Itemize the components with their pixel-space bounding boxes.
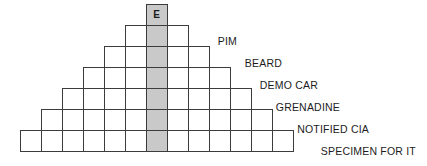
clue-list: PIMBEARDDEMO CARGRENADINENOTIFIED CIASPE… [0, 0, 427, 166]
clue-label-row-3: BEARD [245, 57, 282, 69]
puzzle-stage: E PIMBEARDDEMO CARGRENADINENOTIFIED CIAS… [0, 0, 427, 166]
clue-label-row-5: GRENADINE [276, 101, 340, 113]
clue-label-row-7: SPECIMEN FOR IT [321, 145, 416, 157]
clue-label-row-4: DEMO CAR [260, 79, 318, 91]
clue-label-row-6: NOTIFIED CIA [297, 123, 369, 135]
clue-label-row-2: PIM [218, 35, 237, 47]
